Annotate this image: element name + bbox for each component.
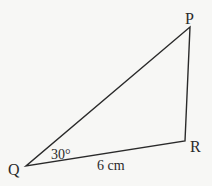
vertex-label-r: R [190, 138, 201, 155]
side-label-qr: 6 cm [97, 158, 125, 173]
triangle-pqr [26, 27, 190, 166]
angle-label: 30° [51, 147, 71, 162]
triangle-diagram: P R Q 30° 6 cm [0, 0, 212, 186]
vertex-label-p: P [185, 10, 194, 27]
vertex-label-q: Q [8, 161, 20, 178]
